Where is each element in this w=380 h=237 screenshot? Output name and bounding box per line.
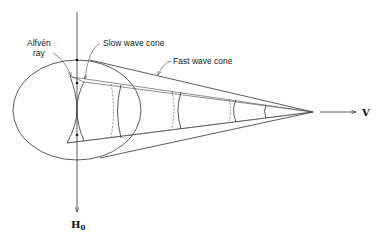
axis-point-upper [76, 82, 79, 85]
alfven-leader [53, 53, 71, 76]
velocity-label: V [361, 107, 370, 118]
fast-leader [158, 61, 171, 75]
cusp-sections [111, 84, 266, 138]
wave-cone-diagram: V H0 Alfvén ray Slow wave cone Fast wave… [0, 0, 380, 237]
alfven-cusp [67, 76, 84, 143]
slow-wave-cone [67, 77, 313, 143]
axis-point-top [76, 59, 79, 62]
axis-point-lower [76, 134, 79, 137]
alfven-ray-label-line2: ray [33, 48, 46, 58]
fast-wave-cone-label: Fast wave cone [173, 56, 233, 66]
fast-wave-cone [90, 60, 313, 158]
field-label: H0 [71, 219, 85, 232]
alfven-ray-label-line1: Alfvén [27, 38, 51, 48]
slow-wave-cone-label: Slow wave cone [103, 38, 165, 48]
